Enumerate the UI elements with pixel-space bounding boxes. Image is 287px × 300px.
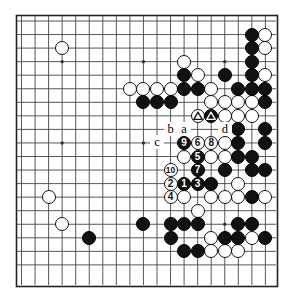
- point-label-b: b: [164, 122, 178, 136]
- move-number-2: 2: [164, 177, 178, 191]
- point-label-d: d: [218, 122, 232, 136]
- move-number-1: 1: [177, 177, 191, 191]
- point-label-c: c: [150, 135, 164, 149]
- triangle-marker-1: [191, 109, 205, 123]
- move-number-3: 3: [191, 177, 205, 191]
- move-number-8: 8: [204, 136, 218, 150]
- move-number-9: 9: [177, 136, 191, 150]
- triangle-marker-2: [204, 109, 218, 123]
- move-number-7: 7: [191, 163, 205, 177]
- move-number-6: 6: [191, 136, 205, 150]
- marker-layer: 12345678910badc: [0, 0, 287, 300]
- move-number-5: 5: [191, 150, 205, 164]
- move-number-10: 10: [164, 163, 178, 177]
- move-number-4: 4: [164, 190, 178, 204]
- go-diagram: 12345678910badc: [0, 0, 287, 300]
- point-label-a: a: [177, 122, 191, 136]
